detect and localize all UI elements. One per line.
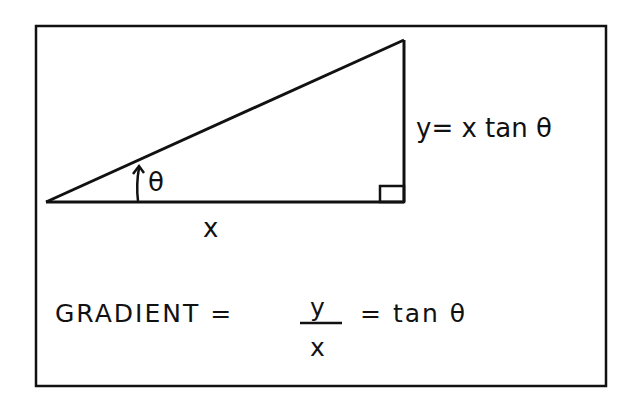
formula-rhs: = tan θ: [360, 299, 467, 328]
gradient-formula: GRADIENT = y x = tan θ: [55, 293, 467, 362]
formula-numerator: y: [310, 293, 327, 322]
triangle-hypotenuse-line: [46, 40, 404, 202]
formula-denominator: x: [310, 333, 327, 362]
frame-border: [36, 26, 606, 386]
height-label: y= x tan θ: [416, 113, 552, 143]
formula-lhs: GRADIENT =: [55, 299, 233, 328]
right-angle-marker: [380, 186, 404, 202]
angle-label: θ: [148, 167, 164, 197]
diagram-canvas: θ x y= x tan θ GRADIENT = y x = tan θ: [0, 0, 639, 412]
angle-arrow-icon: [133, 166, 144, 201]
right-triangle: [46, 40, 404, 202]
base-label: x: [203, 213, 218, 243]
